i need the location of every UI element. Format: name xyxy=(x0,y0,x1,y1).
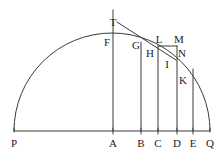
tangent-line-group xyxy=(117,22,176,60)
semicircle-arc-group xyxy=(14,33,210,131)
semicircle-arc xyxy=(14,33,210,131)
tangent-line-from-T xyxy=(117,22,176,60)
diagram-canvas xyxy=(0,0,223,162)
geometric-figure: TFGLMHNIKPABCDEQ xyxy=(0,0,223,162)
ordinate-lines-group xyxy=(113,10,193,131)
